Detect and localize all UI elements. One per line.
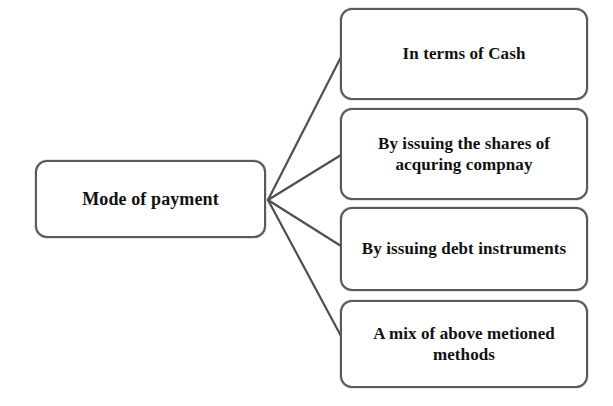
node-mix-of-above-mentioned-methods[interactable]: A mix of above metioned methods xyxy=(340,300,588,388)
node-issuing-shares-of-acquiring-company[interactable]: By issuing the shares of acquring compna… xyxy=(340,108,588,200)
connector-line-1 xyxy=(268,155,341,200)
node-label-branch-3: A mix of above metioned methods xyxy=(373,323,555,366)
node-label-branch-1: By issuing the shares of acquring compna… xyxy=(378,133,550,176)
node-label-root: Mode of payment xyxy=(82,188,218,211)
connector-line-2 xyxy=(268,200,341,246)
diagram-canvas: Mode of payment In terms of Cash By issu… xyxy=(0,0,613,406)
node-label-branch-2: By issuing debt instruments xyxy=(362,238,566,259)
connector-line-3 xyxy=(268,200,341,336)
connector-line-0 xyxy=(268,57,341,200)
node-issuing-debt-instruments[interactable]: By issuing debt instruments xyxy=(340,207,588,291)
node-in-terms-of-cash[interactable]: In terms of Cash xyxy=(340,8,588,100)
node-label-branch-0: In terms of Cash xyxy=(403,43,526,64)
node-mode-of-payment[interactable]: Mode of payment xyxy=(35,160,266,238)
